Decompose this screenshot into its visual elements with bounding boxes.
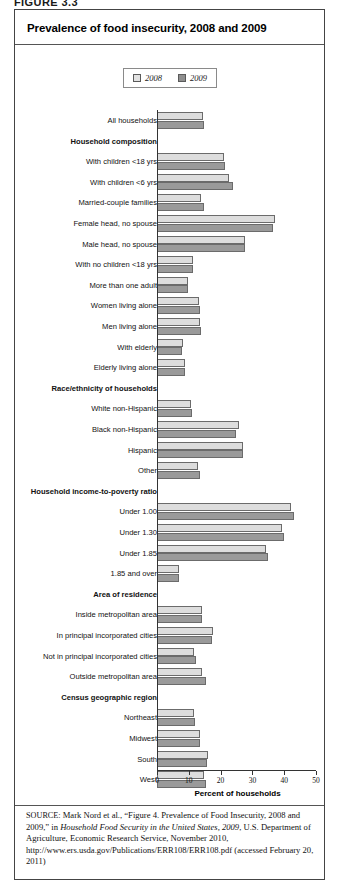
bar-group-label: With children <18 yrs xyxy=(29,157,157,167)
bar-group-row: Male head, no spouse xyxy=(15,234,324,257)
bar-group-label: West xyxy=(29,775,157,785)
bar-pair xyxy=(157,565,324,584)
x-tick-label: 50 xyxy=(312,776,320,785)
bar-2009 xyxy=(157,512,294,520)
bar-pair xyxy=(157,503,324,522)
bar-2008 xyxy=(157,421,239,429)
bar-group-label: 1.85 and over xyxy=(29,569,157,579)
bar-pair xyxy=(157,194,324,213)
legend-item-2009: 2009 xyxy=(178,73,207,83)
x-tick-label: 20 xyxy=(217,776,225,785)
bar-2009 xyxy=(157,162,225,170)
bar-2008 xyxy=(157,318,200,326)
bar-2008 xyxy=(157,442,243,450)
x-axis-title: Percent of households xyxy=(157,789,318,798)
bar-2008 xyxy=(157,215,275,223)
bar-pair xyxy=(157,256,324,275)
x-tick xyxy=(252,771,253,775)
bar-2008 xyxy=(157,194,201,202)
bar-group-row: More than one adult xyxy=(15,275,324,298)
x-tick xyxy=(221,771,222,775)
legend-label-2009: 2009 xyxy=(190,73,207,83)
chart-plot-area: All householdsHousehold compositionWith … xyxy=(15,110,324,770)
bar-group-label: Married-couple families xyxy=(29,198,157,208)
bar-2008 xyxy=(157,359,185,367)
bar-2009 xyxy=(157,430,236,438)
bar-2008 xyxy=(157,503,291,511)
bar-group-row: Inside metropolitan area xyxy=(15,604,324,627)
bar-group-row: 1.85 and over xyxy=(15,563,324,586)
bar-group-row: Elderly living alone xyxy=(15,357,324,380)
bar-group-row: Women living alone xyxy=(15,295,324,318)
bar-pair xyxy=(157,709,324,728)
bar-group-row: Hispanic xyxy=(15,440,324,463)
bar-pair xyxy=(157,627,324,646)
bar-2008 xyxy=(157,277,188,285)
bar-group-label: Midwest xyxy=(29,734,157,744)
bar-2009 xyxy=(157,244,245,252)
bar-group-row: With elderly xyxy=(15,337,324,360)
title-divider xyxy=(15,44,324,45)
source-keyword: SOURCE: xyxy=(26,811,61,820)
x-tick xyxy=(284,771,285,775)
bar-2009 xyxy=(157,636,212,644)
category-header-row: Census geographic region xyxy=(15,687,324,710)
bar-group-label: With no children <18 yrs xyxy=(29,260,157,270)
bar-group-row: Northeast xyxy=(15,707,324,730)
bar-pair xyxy=(157,524,324,543)
bar-2008 xyxy=(157,112,203,120)
bar-group-row: South xyxy=(15,749,324,772)
x-tick-label: 40 xyxy=(280,776,288,785)
bar-2009 xyxy=(157,677,206,685)
bar-2009 xyxy=(157,182,233,190)
bar-2009 xyxy=(157,327,201,335)
bar-pair xyxy=(157,648,324,667)
bar-2009 xyxy=(157,121,204,129)
bar-group-row: All households xyxy=(15,110,324,133)
bar-2009 xyxy=(157,450,243,458)
source-divider xyxy=(15,805,324,806)
bar-2009 xyxy=(157,265,193,273)
bar-2008 xyxy=(157,462,198,470)
bar-group-label: Under 1.00 xyxy=(29,507,157,517)
bar-group-row: Married-couple families xyxy=(15,192,324,215)
bar-pair xyxy=(157,400,324,419)
bar-2008 xyxy=(157,627,213,635)
bar-2009 xyxy=(157,574,179,582)
bar-2008 xyxy=(157,648,194,656)
bar-2008 xyxy=(157,153,224,161)
category-header-row: Household composition xyxy=(15,131,324,154)
bar-group-label: All households xyxy=(29,116,157,126)
x-tick-label: 0 xyxy=(155,776,159,785)
category-header-row: Race/ethnicity of households xyxy=(15,378,324,401)
bar-group-label: Hispanic xyxy=(29,446,157,456)
category-header-label: Census geographic region xyxy=(29,693,157,703)
bar-2008 xyxy=(157,339,183,347)
bar-group-label: Women living alone xyxy=(29,301,157,311)
source-italic-1: Household Food Security in the United St… xyxy=(60,822,239,832)
bar-2009 xyxy=(157,347,182,355)
bar-group-row: Under 1.00 xyxy=(15,501,324,524)
bar-2008 xyxy=(157,236,245,244)
bar-group-row: Men living alone xyxy=(15,316,324,339)
bar-pair xyxy=(157,174,324,193)
bar-2009 xyxy=(157,718,195,726)
bar-pair xyxy=(157,153,324,172)
bar-group-label: With elderly xyxy=(29,343,157,353)
bar-pair xyxy=(157,545,324,564)
bar-group-row: With children <18 yrs xyxy=(15,151,324,174)
chart-legend: 2008 2009 xyxy=(123,68,217,88)
legend-item-2008: 2008 xyxy=(133,73,162,83)
bar-2009 xyxy=(157,203,204,211)
bar-2009 xyxy=(157,656,196,664)
bar-group-label: Black non-Hispanic xyxy=(29,425,157,435)
bar-pair xyxy=(157,277,324,296)
bar-2009 xyxy=(157,285,188,293)
bar-group-row: White non-Hispanic xyxy=(15,398,324,421)
x-tick-label: 30 xyxy=(249,776,257,785)
bar-group-label: Inside metropolitan area xyxy=(29,610,157,620)
bar-pair xyxy=(157,359,324,378)
bar-group-row: Female head, no spouse xyxy=(15,213,324,236)
bar-pair xyxy=(157,751,324,770)
bar-group-label: South xyxy=(29,755,157,765)
